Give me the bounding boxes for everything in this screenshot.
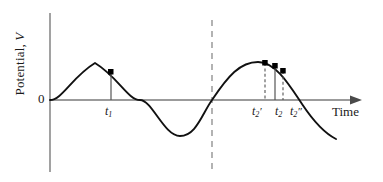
tick-prime-t2-prime: ′ [259,105,261,117]
y-axis-label: Potential, V [12,16,28,112]
tick-label-t2: t2 [275,104,282,119]
origin-zero-label: 0 [38,91,45,107]
tick-label-t2-prime: t2′ [252,104,262,119]
data-point-marker-t2-double-prime [280,68,286,74]
tick-sub-t2-prime: 2 [255,110,259,119]
tick-sub-t2: 2 [278,110,282,119]
potential-vs-time-figure: Potential, V Time 0 t1 t2′ t2 t2″ [0,0,383,182]
x-axis-label: Time [332,104,359,120]
data-point-marker-t1 [108,69,114,75]
y-axis-label-prefix: Potential, [12,41,27,96]
tick-sub-t1: 1 [108,110,112,119]
plot-canvas [0,0,383,182]
data-point-marker-t2 [272,63,278,69]
tick-prime-t2-double-prime: ″ [297,105,302,117]
y-axis-label-symbol: V [12,32,27,40]
tick-sub-t2-double-prime: 2 [293,110,297,119]
tick-label-t2-double-prime: t2″ [290,104,302,119]
data-point-marker-t2-prime [262,60,268,66]
tick-label-t1: t1 [105,104,112,119]
